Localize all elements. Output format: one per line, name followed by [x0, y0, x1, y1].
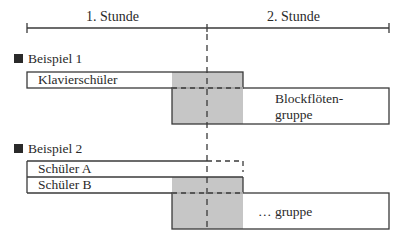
schueler-b-label: Schüler B [38, 177, 92, 193]
example-2-title: Beispiel 2 [28, 141, 82, 157]
example-1-title: Beispiel 1 [28, 51, 82, 67]
blockfloeten-label-line2: gruppe [275, 107, 313, 123]
klavierschueler-label: Klavierschüler [38, 72, 117, 88]
gruppe-label: … gruppe [258, 204, 312, 220]
example-2-marker-icon [14, 144, 23, 153]
example-1-marker-icon [14, 54, 23, 63]
blockfloeten-label-line1: Blockflöten- [275, 91, 343, 107]
schueler-a-label: Schüler A [38, 161, 92, 177]
timeline-axis [27, 23, 389, 33]
diagram-canvas [0, 0, 403, 240]
hour-2-label: 2. Stunde [267, 9, 320, 25]
hour-1-label: 1. Stunde [86, 9, 139, 25]
